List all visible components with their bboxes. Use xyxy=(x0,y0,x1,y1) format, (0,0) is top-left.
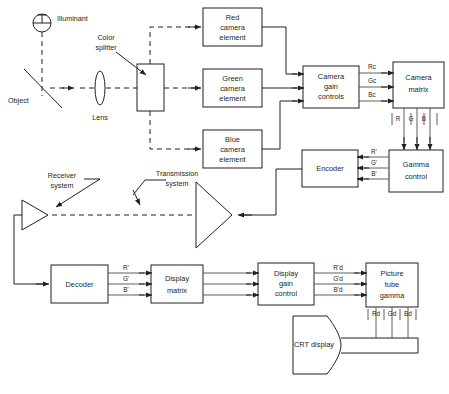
signal-gprime-d-label: G'd xyxy=(333,275,343,282)
camera-gain-line2: gain xyxy=(324,82,338,91)
signal-bc-label: Bc xyxy=(368,91,376,98)
red-camera-element-line1: Red xyxy=(226,13,240,22)
display-gain-line3: control xyxy=(275,289,298,298)
camera-matrix-block: Camera matrix xyxy=(393,62,444,108)
receiver-label-line1: Receiver xyxy=(48,171,77,180)
picture-tube-line2: tube xyxy=(385,280,399,289)
camera-matrix-line1: Camera xyxy=(405,73,432,82)
splitter-to-red-path xyxy=(150,27,196,64)
signal-bd-label: Bd xyxy=(404,310,412,317)
diagram-canvas: Illuminant Object Lens Color splitter Re… xyxy=(0,0,449,394)
receiver-to-decoder-path xyxy=(14,215,44,284)
gamma-control-block: Gamma control xyxy=(389,150,443,192)
color-splitter-label-line2: splitter xyxy=(95,43,117,52)
illuminant-symbol xyxy=(33,14,51,32)
red-camera-element-block: Red camera element xyxy=(203,8,262,46)
green-camera-element-block: Green camera element xyxy=(203,69,262,107)
green-camera-element-line2: camera xyxy=(220,84,246,93)
gamma-control-line1: Gamma xyxy=(403,160,430,169)
illuminant-label: Illuminant xyxy=(57,14,88,23)
green-camera-element-line1: Green xyxy=(222,74,243,83)
signal-bprime-d-label: B'd xyxy=(333,286,342,293)
display-matrix-line2: matrix xyxy=(167,286,187,295)
blue-camera-element-line2: camera xyxy=(220,145,246,154)
picture-tube-line3: gamma xyxy=(380,291,406,300)
signal-rc-label: Rc xyxy=(368,63,377,70)
decoder-signal-gprime: G' xyxy=(123,275,129,282)
red-to-gain-path xyxy=(262,27,297,74)
decoder-label: Decoder xyxy=(66,280,94,289)
crt-display-block: CRT display xyxy=(293,316,418,374)
transmission-label-line2: system xyxy=(166,179,189,188)
color-splitter-label-line1: Color xyxy=(97,33,115,42)
red-camera-element-line2: camera xyxy=(220,23,246,32)
signal-gd-label: Gd xyxy=(388,310,397,317)
signal-bprime-label: B' xyxy=(371,170,376,177)
encoder-label: Encoder xyxy=(316,164,344,173)
object-label: Object xyxy=(8,96,29,105)
signal-r-label: R xyxy=(396,115,401,122)
signal-gprime-label: G' xyxy=(371,159,377,166)
signal-gc-label: Gc xyxy=(368,77,377,84)
splitter-to-blue-path xyxy=(150,111,196,149)
decoder-signal-bprime: B' xyxy=(123,286,128,293)
display-gain-control-block: Display gain control xyxy=(258,263,314,305)
crt-display-label: CRT display xyxy=(294,340,334,349)
object-symbol xyxy=(24,69,62,108)
block-diagram-svg: Illuminant Object Lens Color splitter Re… xyxy=(0,0,449,394)
encoder-block: Encoder xyxy=(302,150,358,187)
receiver-antenna xyxy=(22,200,48,230)
gamma-control-line2: control xyxy=(405,172,428,181)
picture-tube-line1: Picture xyxy=(380,269,403,278)
signal-rprime-d-label: R'd xyxy=(333,264,343,271)
blue-camera-element-line1: Blue xyxy=(225,135,240,144)
picture-tube-gamma-block: Picture tube gamma xyxy=(366,263,418,307)
lens-label: Lens xyxy=(92,113,108,122)
display-matrix-block: Display matrix xyxy=(151,265,203,303)
encoder-to-transmitter-path xyxy=(240,169,302,215)
camera-gain-line1: Camera xyxy=(318,72,345,81)
blue-camera-element-line3: element xyxy=(219,155,245,164)
blue-to-gain-path xyxy=(262,101,297,149)
transmitter-antenna xyxy=(196,182,232,248)
camera-matrix-line2: matrix xyxy=(408,85,428,94)
red-camera-element-line3: element xyxy=(219,33,245,42)
signal-rd-label: Rd xyxy=(372,310,381,317)
blue-camera-element-block: Blue camera element xyxy=(203,130,262,168)
signal-rprime-label: R' xyxy=(371,148,377,155)
display-gain-line2: gain xyxy=(279,279,293,288)
display-gain-line1: Display xyxy=(274,269,299,278)
lens-symbol xyxy=(95,71,105,105)
green-camera-element-line3: element xyxy=(219,94,245,103)
display-matrix-line1: Display xyxy=(165,274,190,283)
transmission-pointer xyxy=(133,190,140,205)
decoder-block: Decoder xyxy=(51,265,108,303)
camera-gain-line3: controls xyxy=(318,92,344,101)
display-matrix-box xyxy=(151,265,203,303)
camera-gain-controls-block: Camera gain controls xyxy=(303,66,359,108)
transmission-label-line1: Transmission xyxy=(156,169,198,178)
receiver-label-line2: system xyxy=(51,181,74,190)
crt-neck-shape xyxy=(341,338,418,353)
decoder-signal-rprime: R' xyxy=(123,264,129,271)
